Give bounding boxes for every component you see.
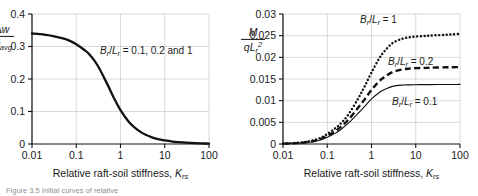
y-tick-label: 0.015	[250, 73, 276, 85]
chart-panel-left: 0.010.111010000.10.20.30.4 Br/Lr = 0.1, …	[0, 0, 239, 196]
ticks-left	[28, 14, 209, 148]
figure-container: 0.010.111010000.10.20.30.4 Br/Lr = 0.1, …	[0, 0, 478, 196]
x-tick-label: 100	[200, 149, 218, 161]
chart-svg-left: 0.010.111010000.10.20.30.4 Br/Lr = 0.1, …	[0, 0, 239, 196]
y-tick-label: 0	[19, 138, 25, 150]
ticks-right	[279, 14, 460, 148]
y-tick-label: 0.3	[10, 40, 25, 52]
y-tick-label: 0.1	[10, 105, 25, 117]
x-tick-label: 0.1	[69, 149, 84, 161]
y-tick-label: 0	[270, 138, 276, 150]
x-tick-label: 10	[410, 149, 422, 161]
x-tick-label: 1	[118, 149, 124, 161]
y-tick-label: 0.4	[10, 8, 25, 20]
x-tick-label: 10	[159, 149, 171, 161]
x-tick-label: 100	[451, 149, 469, 161]
x-tick-label: 1	[369, 149, 375, 161]
gridlines-left	[32, 14, 209, 144]
figure-caption: Figure 3.5 Initial curves of relative	[6, 186, 472, 195]
y-tick-label: 0.03	[256, 8, 277, 20]
y-axis-title-numerator: Δw	[0, 23, 11, 35]
chart-svg-right: 0.010.111010000.0050.010.0150.020.0250.0…	[239, 0, 478, 196]
curve-label-all: Br/Lr = 0.1, 0.2 and 1	[100, 45, 193, 58]
gridlines-right	[283, 14, 460, 144]
y-tick-label: 0.01	[256, 94, 277, 106]
annotations-left: Br/Lr = 0.1, 0.2 and 1	[100, 45, 193, 58]
y-tick-label: 0.2	[10, 73, 25, 85]
x-axis-title: Relative raft-soil stiffness, Krs	[304, 167, 440, 181]
curve-label-br-lr-01: Br/Lr = 0.1	[392, 96, 438, 109]
y-tick-label: 0.005	[250, 116, 276, 128]
x-axis-title: Relative raft-soil stiffness, Krs	[53, 167, 189, 181]
curve-label-br-lr-1: Br/Lr = 1	[360, 14, 397, 27]
chart-panel-right: 0.010.111010000.0050.010.0150.020.0250.0…	[239, 0, 478, 196]
y-tick-label: 0.02	[256, 51, 277, 63]
x-tick-label: 0.01	[22, 149, 43, 161]
y-axis-title-numerator: M	[249, 26, 258, 38]
tick-labels-left: 0.010.111010000.10.20.30.4	[10, 8, 218, 161]
x-tick-label: 0.1	[320, 149, 335, 161]
x-tick-label: 0.01	[273, 149, 294, 161]
